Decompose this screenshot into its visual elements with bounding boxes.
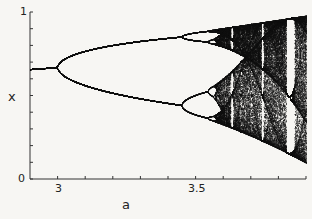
y-tick-label-0: 0 — [18, 173, 25, 184]
y-tick-label-1: 1 — [20, 6, 27, 17]
bifurcation-points — [30, 16, 307, 163]
bifurcation-plot — [0, 0, 312, 219]
x-tick-label-3: 3 — [55, 183, 62, 194]
x-tick-label-3-5: 3.5 — [188, 183, 206, 194]
y-axis-label: x — [8, 90, 16, 103]
x-axis-label: a — [122, 198, 130, 211]
